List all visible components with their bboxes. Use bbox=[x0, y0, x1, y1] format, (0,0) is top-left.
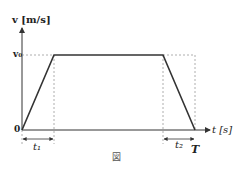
t2-label: t₂ bbox=[175, 139, 183, 150]
y-axis-label: v [m/s] bbox=[12, 14, 51, 25]
figure-caption: 図 bbox=[112, 150, 121, 163]
x-axis-label: t [s] bbox=[212, 124, 232, 135]
v0-label: v₀ bbox=[13, 49, 22, 59]
origin-label: 0 bbox=[14, 124, 20, 134]
velocity-profile bbox=[22, 55, 195, 130]
t1-label: t₁ bbox=[33, 141, 41, 152]
T-label: T bbox=[191, 143, 199, 156]
